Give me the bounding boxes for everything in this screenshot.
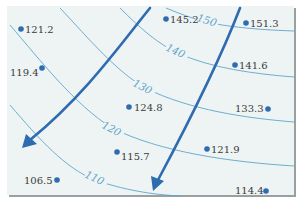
point-marker[interactable] — [114, 149, 120, 155]
point-marker[interactable] — [204, 146, 210, 152]
contour-label-150: 150 — [196, 11, 219, 29]
data-points: 121.2 119.4 145.2 151.3 141.6 124.8 133.… — [10, 14, 279, 196]
point-marker[interactable] — [163, 16, 169, 22]
point-marker[interactable] — [39, 65, 45, 71]
point-marker[interactable] — [243, 20, 249, 26]
point-marker[interactable] — [265, 106, 271, 112]
point-marker[interactable] — [232, 62, 238, 68]
point-label: 121.9 — [211, 144, 240, 155]
point-label: 145.2 — [170, 14, 199, 25]
point-marker[interactable] — [54, 177, 60, 183]
point-label: 151.3 — [250, 18, 279, 29]
contour-map: 150 140 130 120 110 121.2 119.4 145.2 15… — [0, 0, 299, 207]
contour-label-110: 110 — [83, 168, 107, 187]
point-marker[interactable] — [18, 26, 24, 32]
contour-label-140: 140 — [164, 41, 188, 60]
point-label: 141.6 — [239, 60, 268, 71]
point-label: 121.2 — [25, 24, 54, 35]
point-label: 119.4 — [10, 67, 39, 78]
contour-120 — [10, 25, 294, 166]
point-label: 133.3 — [235, 103, 264, 114]
contour-label-120: 120 — [100, 119, 124, 139]
point-marker[interactable] — [126, 104, 132, 110]
contour-label-130: 130 — [131, 77, 155, 97]
point-label: 124.8 — [134, 102, 163, 113]
point-label: 106.5 — [24, 175, 53, 186]
point-marker[interactable] — [263, 188, 269, 194]
point-label: 114.4 — [235, 185, 264, 196]
right-flow-arrow — [151, 8, 240, 191]
point-label: 115.7 — [121, 151, 150, 162]
